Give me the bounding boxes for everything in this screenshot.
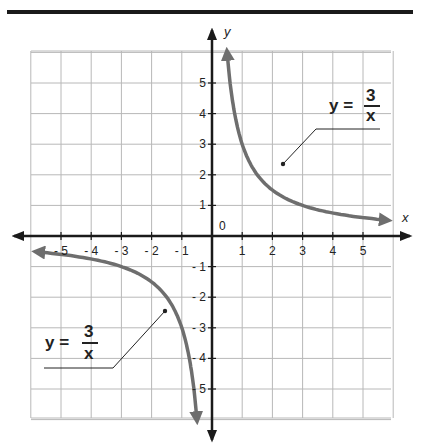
- svg-text:- 4: - 4: [84, 244, 98, 258]
- hyperbola-plot: - 5- 4- 3- 2- 11234554321- 1- 2- 3- 4- 5…: [0, 0, 423, 448]
- svg-text:3: 3: [366, 86, 375, 105]
- equation-label-q1: y = 3 x: [281, 86, 380, 166]
- svg-text:y =: y =: [329, 96, 353, 115]
- svg-text:3: 3: [84, 322, 93, 341]
- svg-text:- 4: - 4: [192, 351, 206, 365]
- equation-label-q3: y = 3 x: [44, 309, 167, 368]
- svg-text:5: 5: [199, 76, 206, 90]
- svg-text:1: 1: [199, 198, 206, 212]
- svg-text:- 2: - 2: [192, 290, 206, 304]
- axes: [14, 30, 410, 440]
- origin-label: 0: [219, 219, 226, 233]
- svg-text:- 5: - 5: [192, 382, 206, 396]
- svg-text:1: 1: [239, 244, 246, 258]
- svg-text:- 1: - 1: [192, 260, 206, 274]
- svg-text:- 2: - 2: [145, 244, 159, 258]
- svg-text:- 3: - 3: [192, 321, 206, 335]
- leader-line-q1: [283, 129, 380, 164]
- y-axis-label: y: [223, 24, 232, 39]
- svg-text:- 1: - 1: [175, 244, 189, 258]
- svg-text:x: x: [366, 106, 376, 125]
- svg-text:- 5: - 5: [54, 244, 68, 258]
- svg-text:4: 4: [199, 107, 206, 121]
- svg-text:y =: y =: [45, 333, 69, 352]
- svg-text:4: 4: [329, 244, 336, 258]
- svg-text:- 3: - 3: [114, 244, 128, 258]
- svg-text:3: 3: [199, 137, 206, 151]
- svg-text:2: 2: [269, 244, 276, 258]
- svg-text:2: 2: [199, 168, 206, 182]
- x-axis-label: x: [401, 210, 409, 225]
- svg-text:5: 5: [360, 244, 367, 258]
- svg-text:x: x: [84, 344, 94, 363]
- svg-text:3: 3: [299, 244, 306, 258]
